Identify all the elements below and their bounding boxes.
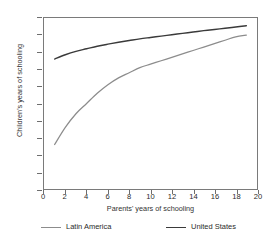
x-tick-label-16: 16 — [203, 193, 227, 201]
x-tick-mark-12 — [172, 190, 173, 194]
y-tick-mark-15 — [37, 17, 42, 18]
chart-legend: Latin America United States — [0, 222, 272, 236]
x-tick-mark-14 — [194, 190, 195, 194]
y-tick-mark-9 — [37, 121, 42, 122]
x-tick-mark-10 — [151, 190, 152, 194]
x-tick-label-8: 8 — [117, 193, 141, 201]
y-tick-mark-7 — [37, 155, 42, 156]
y-axis-label: Children's years of schooling — [15, 11, 24, 171]
x-tick-mark-4 — [86, 190, 87, 194]
x-tick-mark-20 — [258, 190, 259, 194]
plot-lines — [44, 18, 257, 189]
y-tick-mark-12 — [37, 69, 42, 70]
y-tick-mark-10 — [37, 104, 42, 105]
y-tick-mark-6 — [37, 173, 42, 174]
x-tick-mark-2 — [65, 190, 66, 194]
x-tick-mark-6 — [108, 190, 109, 194]
x-tick-mark-16 — [215, 190, 216, 194]
line-latin-america — [55, 35, 247, 144]
x-tick-label-18: 18 — [225, 193, 249, 201]
x-tick-label-10: 10 — [139, 193, 163, 201]
x-axis-label: Parents' years of schooling — [43, 204, 258, 213]
y-tick-mark-13 — [37, 52, 42, 53]
y-tick-mark-5 — [37, 190, 42, 191]
legend-swatch-united-states — [166, 227, 186, 228]
chart-title: and the United States — [3, 0, 269, 2]
legend-swatch-latin-america — [41, 227, 61, 228]
legend-label-latin-america: Latin America — [66, 222, 111, 232]
x-tick-label-4: 4 — [74, 193, 98, 201]
plot-area — [43, 17, 258, 190]
x-tick-label-14: 14 — [182, 193, 206, 201]
y-tick-mark-14 — [37, 34, 42, 35]
x-tick-label-6: 6 — [96, 193, 120, 201]
legend-item-united-states: United States — [166, 222, 236, 232]
chart-figure: and the United States Children's years o… — [0, 0, 272, 241]
y-tick-mark-11 — [37, 86, 42, 87]
x-tick-label-2: 2 — [53, 193, 77, 201]
y-tick-mark-8 — [37, 138, 42, 139]
x-tick-mark-0 — [43, 190, 44, 194]
legend-item-latin-america: Latin America — [41, 222, 111, 232]
legend-label-united-states: United States — [191, 222, 236, 232]
x-tick-label-0: 0 — [31, 193, 55, 201]
x-tick-label-20: 20 — [246, 193, 270, 201]
x-tick-mark-8 — [129, 190, 130, 194]
x-tick-label-12: 12 — [160, 193, 184, 201]
x-tick-mark-18 — [237, 190, 238, 194]
